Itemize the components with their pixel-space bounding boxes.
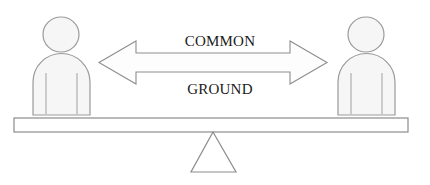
left-person-head-icon	[43, 17, 79, 52]
right-person-body-icon	[338, 54, 395, 116]
diagram-canvas: COMMON GROUND	[0, 0, 430, 185]
caption-line-1: COMMON	[150, 33, 290, 49]
right-person-figure	[338, 17, 395, 115]
caption-line-2: GROUND	[150, 81, 290, 97]
common-ground-caption: COMMON GROUND	[150, 1, 290, 129]
left-person-body-icon	[33, 54, 90, 116]
triangle-fulcrum-icon	[191, 132, 236, 172]
right-person-head-icon	[348, 17, 384, 52]
left-person-figure	[33, 17, 90, 115]
